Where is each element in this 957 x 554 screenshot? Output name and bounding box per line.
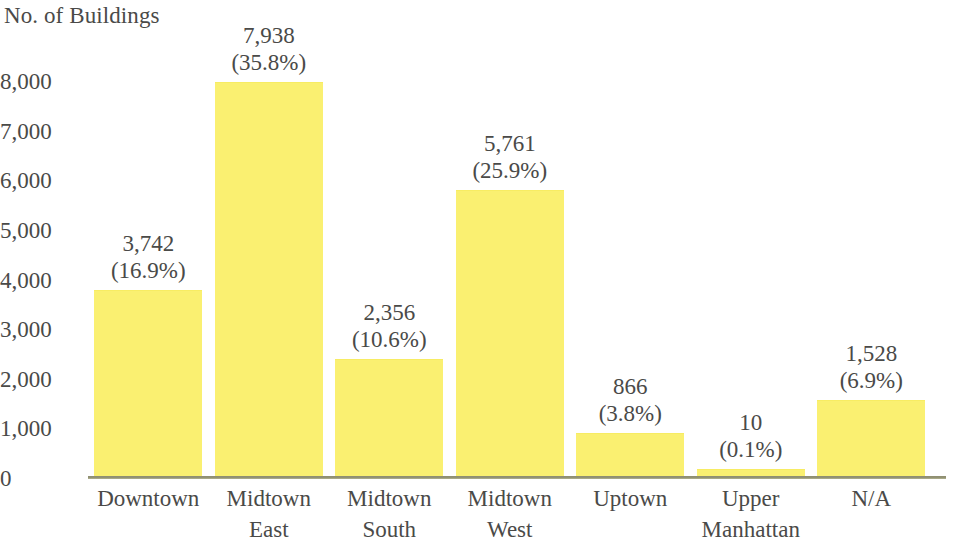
- y-axis-tick-label: 0: [0, 467, 72, 490]
- x-axis-category-line: Manhattan: [691, 514, 812, 545]
- x-axis-category-label: Uptown: [570, 483, 691, 514]
- y-axis-tick-label: 4,000: [0, 269, 72, 292]
- x-axis-category-labels: DowntownMidtownEastMidtownSouthMidtownWe…: [88, 483, 948, 554]
- bar-value: 3,742: [122, 231, 174, 256]
- x-axis-category-label: MidtownSouth: [329, 483, 450, 545]
- y-axis-tick-label: 6,000: [0, 169, 72, 192]
- bar[interactable]: [94, 290, 202, 476]
- bar[interactable]: [335, 359, 443, 476]
- bar-percent: (6.9%): [789, 367, 953, 394]
- bar-value: 7,938: [243, 23, 295, 48]
- x-axis-category-label: MidtownEast: [209, 483, 330, 545]
- bar-value-label: 1,528(6.9%): [789, 340, 953, 394]
- x-axis-category-line: Downtown: [88, 483, 209, 514]
- plot-area: 3,742(16.9%)7,938(35.8%)2,356(10.6%)5,76…: [88, 0, 948, 479]
- bar-percent: (25.9%): [428, 157, 592, 184]
- x-axis-category-line: Midtown: [450, 483, 571, 514]
- x-axis-category-line: Upper: [691, 483, 812, 514]
- y-axis-tick-label: 1,000: [0, 417, 72, 440]
- y-axis-tick-label: 2,000: [0, 368, 72, 391]
- bar[interactable]: [215, 82, 323, 476]
- bar-value-label: 2,356(10.6%): [307, 299, 471, 353]
- y-axis-tick-label: 8,000: [0, 70, 72, 93]
- y-axis-tick-label: 5,000: [0, 219, 72, 242]
- bar-percent: (10.6%): [307, 326, 471, 353]
- bar-series: 3,742(16.9%)7,938(35.8%)2,356(10.6%)5,76…: [88, 0, 948, 476]
- x-axis-category-line: South: [329, 514, 450, 545]
- bar-group: 10(0.1%): [697, 0, 805, 476]
- bar-value: 2,356: [363, 300, 415, 325]
- bar-group: 2,356(10.6%): [335, 0, 443, 476]
- x-axis-category-line: West: [450, 514, 571, 545]
- bar-group: 7,938(35.8%): [215, 0, 323, 476]
- x-axis-line: [88, 476, 946, 479]
- x-axis-category-label: UpperManhattan: [691, 483, 812, 545]
- bar-percent: (0.1%): [669, 436, 833, 463]
- x-axis-category-label: N/A: [811, 483, 932, 514]
- bar[interactable]: [456, 190, 564, 476]
- bar-percent: (35.8%): [187, 49, 351, 76]
- bar-value: 1,528: [845, 341, 897, 366]
- x-axis-category-label: Downtown: [88, 483, 209, 514]
- bar-chart: No. of Buildings 8,0007,0006,0005,0004,0…: [0, 0, 957, 554]
- bar-value-label: 7,938(35.8%): [187, 22, 351, 76]
- bar-percent: (16.9%): [66, 257, 230, 284]
- x-axis-category-line: East: [209, 514, 330, 545]
- bar[interactable]: [697, 469, 805, 476]
- y-axis-tick-label: 3,000: [0, 318, 72, 341]
- bar-group: 866(3.8%): [576, 0, 684, 476]
- bar-group: 1,528(6.9%): [817, 0, 925, 476]
- bar-value-label: 5,761(25.9%): [428, 130, 592, 184]
- bar-value: 5,761: [484, 131, 536, 156]
- bar-value-label: 10(0.1%): [669, 409, 833, 463]
- y-axis-tick-label: 7,000: [0, 120, 72, 143]
- bar-value-label: 3,742(16.9%): [66, 230, 230, 284]
- bar[interactable]: [817, 400, 925, 476]
- x-axis-category-line: Midtown: [209, 483, 330, 514]
- x-axis-category-line: N/A: [811, 483, 932, 514]
- bar-value: 866: [613, 374, 648, 399]
- x-axis-category-line: Midtown: [329, 483, 450, 514]
- x-axis-category-label: MidtownWest: [450, 483, 571, 545]
- bar-value: 10: [739, 410, 762, 435]
- x-axis-category-line: Uptown: [570, 483, 691, 514]
